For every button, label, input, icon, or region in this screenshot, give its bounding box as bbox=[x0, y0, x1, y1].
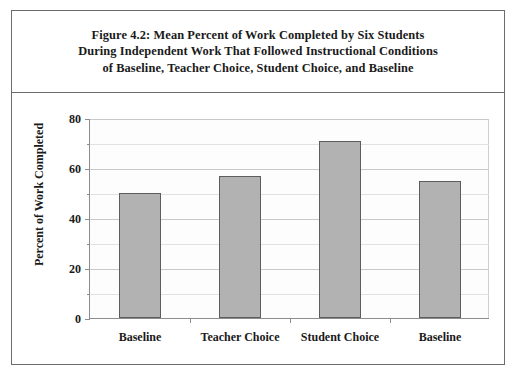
y-axis-tick bbox=[85, 169, 90, 170]
y-axis-tick-label: 40 bbox=[69, 212, 81, 227]
gridline-major bbox=[90, 119, 489, 120]
figure-title: Figure 4.2: Mean Percent of Work Complet… bbox=[64, 27, 452, 77]
bar bbox=[119, 193, 161, 318]
gridline-major bbox=[90, 169, 489, 170]
y-axis-tick-minor bbox=[87, 244, 90, 245]
y-axis-tick-label: 0 bbox=[75, 312, 81, 327]
chart-area: Percent of Work Completed 020406080Basel… bbox=[12, 93, 504, 365]
gridline-minor bbox=[90, 144, 489, 145]
bar bbox=[319, 141, 361, 319]
y-axis-tick bbox=[85, 219, 90, 220]
figure-title-line-1: Figure 4.2: Mean Percent of Work Complet… bbox=[78, 27, 438, 44]
plot-area: 020406080BaselineTeacher ChoiceStudent C… bbox=[89, 119, 489, 319]
y-axis-tick-minor bbox=[87, 194, 90, 195]
bar bbox=[419, 181, 461, 319]
y-axis-tick-label: 80 bbox=[69, 112, 81, 127]
y-axis-tick-minor bbox=[87, 144, 90, 145]
x-axis-category-label: Baseline bbox=[119, 330, 162, 345]
y-axis-tick-minor bbox=[87, 294, 90, 295]
x-axis-tick bbox=[290, 318, 291, 323]
figure-title-line-2: During Independent Work That Followed In… bbox=[78, 43, 438, 60]
figure-frame: Figure 4.2: Mean Percent of Work Complet… bbox=[11, 10, 505, 365]
y-axis-tick bbox=[85, 319, 90, 320]
x-axis-category-label: Baseline bbox=[419, 330, 462, 345]
y-axis-tick bbox=[85, 269, 90, 270]
y-axis-tick-label: 20 bbox=[69, 262, 81, 277]
x-axis-category-label: Student Choice bbox=[301, 330, 379, 345]
y-axis-tick-label: 60 bbox=[69, 162, 81, 177]
bar bbox=[219, 176, 261, 319]
x-axis-tick bbox=[190, 318, 191, 323]
figure-title-line-3: of Baseline, Teacher Choice, Student Cho… bbox=[78, 60, 438, 77]
x-axis-category-label: Teacher Choice bbox=[201, 330, 280, 345]
x-axis-tick bbox=[390, 318, 391, 323]
y-axis-tick bbox=[85, 119, 90, 120]
y-axis-label: Percent of Work Completed bbox=[32, 110, 47, 280]
figure-title-block: Figure 4.2: Mean Percent of Work Complet… bbox=[12, 11, 504, 93]
